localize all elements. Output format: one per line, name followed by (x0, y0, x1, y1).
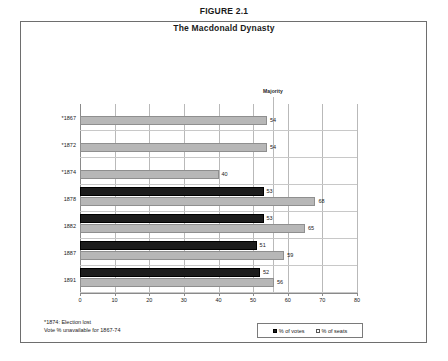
bar-seats-1878 (80, 197, 315, 206)
x-tick-mark-20 (149, 293, 150, 296)
bar-value-votes-1882: 53 (267, 214, 273, 223)
bar-value-seats-1887: 59 (287, 251, 293, 260)
x-tick-mark-50 (253, 293, 254, 296)
y-axis-label-1872: *1872 (62, 140, 76, 150)
x-tick-mark-80 (357, 293, 358, 296)
bar-votes-1882 (80, 214, 264, 223)
x-tick-label-70: 70 (319, 297, 325, 303)
x-tick-mark-30 (184, 293, 185, 296)
legend-label-votes: % of votes (279, 328, 305, 334)
y-axis-label-1867: *1867 (62, 113, 76, 123)
legend-label-seats: % of seats (322, 328, 348, 334)
bar-value-votes-1891: 52 (263, 268, 269, 277)
footnote-line-2: Vote % unavailable for 1867-74 (44, 326, 120, 334)
legend-item-votes: % of votes (273, 328, 305, 334)
legend-swatch-seats-icon (316, 329, 320, 333)
x-tick-mark-70 (322, 293, 323, 296)
x-tick-label-0: 0 (78, 297, 81, 303)
x-tick-mark-40 (219, 293, 220, 296)
y-axis-labels: *1867*1872*18741878188218871891 (20, 104, 76, 293)
bar-seats-1874 (80, 170, 219, 179)
y-axis-label-1882: 1882 (64, 221, 76, 231)
x-tick-label-80: 80 (354, 297, 360, 303)
x-tick-label-40: 40 (215, 297, 221, 303)
bar-group-1878: 5368 (80, 185, 357, 212)
footnote: *1874: Election lost Vote % unavailable … (44, 318, 120, 334)
x-tick-label-30: 30 (181, 297, 187, 303)
bar-votes-1887 (80, 241, 257, 250)
bar-votes-1878 (80, 187, 264, 196)
bar-value-seats-1891: 56 (277, 278, 283, 287)
y-axis-label-1874: *1874 (62, 167, 76, 177)
bar-value-seats-1874: 40 (222, 170, 228, 179)
bar-seats-1887 (80, 251, 284, 260)
bar-value-votes-1878: 53 (267, 187, 273, 196)
bar-value-seats-1867: 54 (270, 116, 276, 125)
x-tick-label-20: 20 (146, 297, 152, 303)
bar-seats-1867 (80, 116, 267, 125)
figure-subtitle: The Macdonald Dynasty (0, 23, 448, 33)
bar-value-seats-1878: 68 (318, 197, 324, 206)
chart-legend: % of votes % of seats (257, 323, 363, 338)
x-tick-label-60: 60 (285, 297, 291, 303)
x-tick-mark-10 (115, 293, 116, 296)
bar-group-1874: 40 (80, 158, 357, 185)
y-axis-label-1887: 1887 (64, 248, 76, 258)
bar-group-1867: 54 (80, 104, 357, 131)
majority-annotation-label: Majority (238, 88, 308, 94)
bar-value-seats-1882: 65 (308, 224, 314, 233)
footnote-line-1: *1874: Election lost (44, 318, 120, 326)
gridline-80 (357, 104, 358, 293)
bar-value-seats-1872: 54 (270, 143, 276, 152)
bar-seats-1882 (80, 224, 305, 233)
bar-seats-1891 (80, 278, 274, 287)
bar-seats-1872 (80, 143, 267, 152)
x-tick-mark-60 (288, 293, 289, 296)
x-tick-label-50: 50 (250, 297, 256, 303)
bar-group-1882: 5365 (80, 212, 357, 239)
figure-title: FIGURE 2.1 (0, 6, 448, 16)
legend-item-seats: % of seats (316, 328, 348, 334)
x-tick-label-10: 10 (112, 297, 118, 303)
legend-swatch-votes-icon (273, 329, 277, 333)
bar-votes-1891 (80, 268, 260, 277)
bar-value-votes-1887: 51 (260, 241, 266, 250)
plot-area: 5454405368536551595256 (80, 104, 357, 293)
x-tick-mark-0 (80, 293, 81, 296)
y-axis-label-1878: 1878 (64, 194, 76, 204)
y-axis-label-1891: 1891 (64, 275, 76, 285)
x-axis-tick-labels: 01020304050607080 (80, 297, 357, 309)
bar-group-1887: 5159 (80, 239, 357, 266)
bar-group-1891: 5256 (80, 266, 357, 293)
bar-group-1872: 54 (80, 131, 357, 158)
